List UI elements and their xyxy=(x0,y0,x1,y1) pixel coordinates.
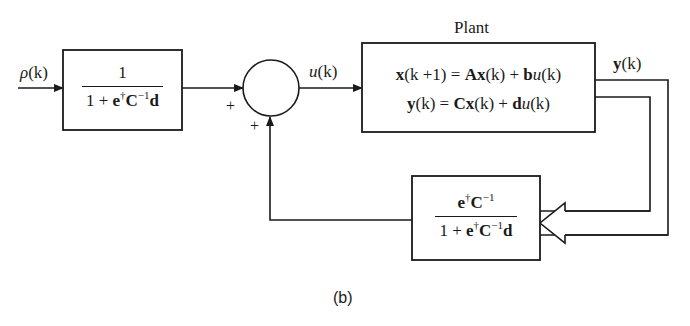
output-signal-label: y(k) xyxy=(613,55,641,72)
eq1-b: b xyxy=(523,65,532,84)
sum-left-sign: + xyxy=(226,98,235,114)
eq2-y: y xyxy=(407,94,416,113)
eq2-u: u xyxy=(522,94,531,113)
eq2-plus: + xyxy=(498,94,508,113)
eq2-C: C xyxy=(453,94,465,113)
den-C: C xyxy=(126,91,138,110)
eq2-arg2: (k) xyxy=(474,94,494,113)
vector-arrowhead xyxy=(540,203,565,243)
rho-symbol: ρ xyxy=(20,63,28,82)
den-e: e xyxy=(113,91,121,110)
y-symbol: y xyxy=(613,54,622,73)
input-arg: (k) xyxy=(28,63,48,82)
eq1-arg3: (k) xyxy=(541,65,561,84)
den-one: 1 xyxy=(86,91,95,110)
control-signal-label: u(k) xyxy=(309,63,337,80)
prefilter-block: 1 1 + e†C−1d xyxy=(63,64,182,109)
fb-den-plus: + xyxy=(452,221,462,240)
eq2-lhs-arg: (k) xyxy=(416,94,436,113)
u-symbol: u xyxy=(309,62,318,81)
prefilter-numerator: 1 xyxy=(114,64,131,86)
den-inv: −1 xyxy=(138,89,150,101)
feedback-block: e†C−1 1 + e†C−1d xyxy=(412,194,540,239)
eq1-arg2: (k) xyxy=(485,65,505,84)
y-arg: (k) xyxy=(622,54,642,73)
eq1-plus: + xyxy=(509,65,519,84)
fb-den-e: e xyxy=(466,221,474,240)
fb-num-C: C xyxy=(471,193,483,212)
eq2-equals: = xyxy=(440,94,450,113)
u-arg: (k) xyxy=(318,62,338,81)
plant-block-frame xyxy=(362,43,595,132)
diagram-lines xyxy=(0,0,690,326)
eq2-x: x xyxy=(466,94,475,113)
eq1-equals: = xyxy=(451,65,461,84)
plant-output-equation: y(k) = Cx(k) + du(k) xyxy=(362,95,595,112)
eq2-d: d xyxy=(512,94,521,113)
eq2-arg3: (k) xyxy=(530,94,550,113)
fb-num-e: e xyxy=(457,193,465,212)
summing-junction-circle xyxy=(243,60,299,116)
plant-title: Plant xyxy=(454,19,489,36)
fb-num-inv: −1 xyxy=(483,191,495,203)
feedback-numerator: e†C−1 xyxy=(453,194,498,216)
eq1-lhs-arg: (k +1) xyxy=(404,65,446,84)
den-plus: + xyxy=(99,91,109,110)
input-signal-label: ρ(k) xyxy=(20,64,48,81)
sum-bottom-sign: + xyxy=(250,118,259,134)
den-d: d xyxy=(150,91,159,110)
figure-caption: (b) xyxy=(333,290,353,306)
fb-den-one: 1 xyxy=(439,221,448,240)
plant-state-equation: x(k +1) = Ax(k) + bu(k) xyxy=(362,66,595,83)
fb-den-C: C xyxy=(479,221,491,240)
prefilter-denominator: 1 + e†C−1d xyxy=(82,86,163,109)
fb-den-d: d xyxy=(503,221,512,240)
feedback-denominator: 1 + e†C−1d xyxy=(435,216,516,239)
eq1-A: A xyxy=(465,65,477,84)
fb-den-inv: −1 xyxy=(491,219,503,231)
